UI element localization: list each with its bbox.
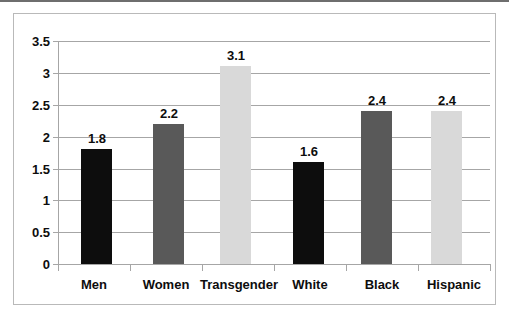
y-axis-tick-2 <box>53 137 59 138</box>
y-axis-tick-1.5 <box>53 169 59 170</box>
y-axis-label-0: 3.5 <box>14 35 50 48</box>
bar-2[interactable] <box>220 66 251 264</box>
gridline-3 <box>58 73 490 74</box>
chart-plot-region: 3.5 3 2.5 2 1.5 1 0.5 0 1.8 2.2 3.1 1.6 … <box>14 14 497 306</box>
bar-value-label-4: 2.4 <box>356 94 398 107</box>
y-axis-label-5: 1 <box>14 194 50 207</box>
bar-value-label-0: 1.8 <box>76 132 118 145</box>
y-axis-label-4: 1.5 <box>14 163 50 176</box>
y-axis-label-2: 2.5 <box>14 99 50 112</box>
scan-top-rule <box>0 0 509 2</box>
x-axis-tick-4 <box>346 265 347 271</box>
gridline-1.5 <box>58 169 490 170</box>
x-axis-tick-3 <box>274 265 275 271</box>
bar-value-label-1: 2.2 <box>148 107 190 120</box>
category-label-women: Women <box>130 278 202 291</box>
category-label-transgender: Transgender <box>200 278 276 291</box>
y-axis-tick-3.5 <box>53 41 59 42</box>
bar-value-label-3: 1.6 <box>288 145 330 158</box>
bar-3[interactable] <box>293 162 324 264</box>
x-axis-tick-5 <box>418 265 419 271</box>
gridline-1 <box>58 200 490 201</box>
chart-outer-frame: 3.5 3 2.5 2 1.5 1 0.5 0 1.8 2.2 3.1 1.6 … <box>13 13 496 305</box>
gridline-0.5 <box>58 232 490 233</box>
gridline-2 <box>58 137 490 138</box>
bar-1[interactable] <box>153 124 184 264</box>
category-label-men: Men <box>58 278 130 291</box>
x-axis-tick-6 <box>490 265 491 271</box>
y-axis-tick-1 <box>53 200 59 201</box>
bar-4[interactable] <box>361 111 392 264</box>
y-axis-label-7: 0 <box>14 258 50 271</box>
y-axis-label-1: 3 <box>14 67 50 80</box>
x-axis-tick-0 <box>58 265 59 271</box>
x-axis-tick-1 <box>130 265 131 271</box>
x-axis-tick-2 <box>202 265 203 271</box>
category-label-white: White <box>274 278 346 291</box>
y-axis-tick-0.5 <box>53 232 59 233</box>
gridline-3.5 <box>58 41 490 42</box>
category-label-black: Black <box>346 278 418 291</box>
category-label-hispanic: Hispanic <box>418 278 490 291</box>
bar-0[interactable] <box>81 149 112 264</box>
y-axis-tick-2.5 <box>53 105 59 106</box>
bar-value-label-2: 3.1 <box>215 49 257 62</box>
y-axis-label-6: 0.5 <box>14 226 50 239</box>
y-axis-label-3: 2 <box>14 131 50 144</box>
y-axis-tick-3 <box>53 73 59 74</box>
bar-value-label-5: 2.4 <box>426 94 468 107</box>
bar-5[interactable] <box>431 111 462 264</box>
